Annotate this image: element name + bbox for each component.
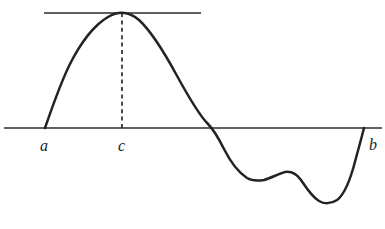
label-max-point-c: c — [118, 137, 125, 154]
label-left-endpoint-a: a — [40, 137, 48, 154]
label-right-endpoint-b: b — [369, 136, 377, 153]
function-maximum-figure: a c b — [0, 0, 385, 229]
label-layer: a c b — [0, 0, 385, 229]
